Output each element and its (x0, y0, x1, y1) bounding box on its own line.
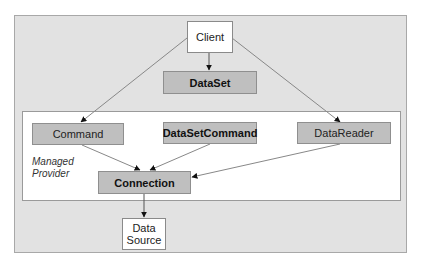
node-datareader: DataReader (297, 122, 391, 144)
node-command: Command (32, 123, 124, 145)
node-datasource-line2: Source (127, 234, 162, 246)
node-datasetcommand-label: DataSetCommand (163, 127, 258, 139)
node-datasetcommand: DataSetCommand (163, 122, 257, 144)
node-datasource: Data Source (122, 218, 166, 250)
node-connection-label: Connection (114, 177, 175, 189)
node-command-label: Command (53, 128, 104, 140)
node-datasource-line1: Data (132, 222, 155, 234)
managed-provider-label: Managed Provider (32, 156, 82, 180)
managed-provider-text: Managed Provider (32, 156, 74, 179)
node-connection: Connection (98, 171, 191, 194)
node-client: Client (187, 21, 233, 53)
node-datareader-label: DataReader (314, 127, 373, 139)
node-client-label: Client (196, 31, 224, 43)
node-dataset: DataSet (163, 71, 257, 94)
node-dataset-label: DataSet (190, 77, 231, 89)
